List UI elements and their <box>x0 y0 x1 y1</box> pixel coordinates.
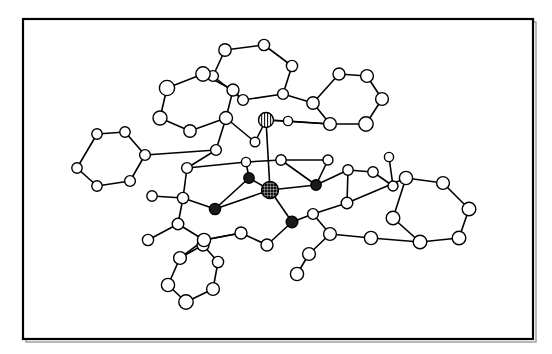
carbon-atom <box>307 97 319 109</box>
carbon-atom <box>147 191 157 201</box>
carbon-atom <box>462 202 476 216</box>
carbon-atom <box>172 218 184 230</box>
carbon-atom <box>153 111 167 125</box>
carbon-atom <box>161 278 174 291</box>
carbon-atom <box>238 95 249 106</box>
carbon-atom <box>452 231 466 245</box>
carbon-atom <box>343 165 353 175</box>
carbon-atom <box>196 67 210 81</box>
carbon-atom <box>283 116 292 125</box>
carbon-atom <box>364 231 377 244</box>
carbon-atom <box>92 129 102 139</box>
carbon-atom <box>241 157 250 166</box>
carbon-atom <box>250 137 260 147</box>
carbon-atom <box>207 283 220 296</box>
carbon-atom <box>324 118 337 131</box>
carbon-atom <box>220 112 233 125</box>
carbon-atom <box>286 60 297 71</box>
carbon-atom <box>323 155 333 165</box>
molecular-structure-svg <box>0 0 552 354</box>
carbon-atom <box>212 256 223 267</box>
carbon-atom <box>276 155 286 165</box>
carbon-atom <box>125 176 136 187</box>
carbon-atom <box>386 211 400 225</box>
carbon-atom <box>72 163 82 173</box>
heteroatom <box>311 180 321 190</box>
carbon-atom <box>376 93 389 106</box>
carbon-atom <box>184 125 196 137</box>
carbon-atom <box>179 295 193 309</box>
carbon-atom <box>235 227 247 239</box>
carbon-atom <box>384 152 393 161</box>
carbon-atom <box>368 167 378 177</box>
metal-atom <box>259 113 274 128</box>
frame-rect <box>23 19 533 339</box>
carbon-atom <box>324 228 337 241</box>
figure-root <box>0 0 552 354</box>
carbon-atom <box>308 209 319 220</box>
carbon-atom <box>261 239 273 251</box>
metal-atom <box>262 182 279 199</box>
carbon-atom <box>361 70 374 83</box>
carbon-atom <box>182 163 193 174</box>
carbon-atom <box>290 267 303 280</box>
carbon-atom <box>258 39 269 50</box>
carbon-atom <box>219 44 231 56</box>
heteroatom <box>244 173 254 183</box>
carbon-atom <box>140 150 151 161</box>
carbon-atom <box>177 192 188 203</box>
heteroatom <box>209 203 220 214</box>
carbon-atom <box>227 84 239 96</box>
carbon-atom <box>341 197 353 209</box>
carbon-atom <box>211 145 222 156</box>
carbon-atom <box>437 177 450 190</box>
carbon-atom <box>120 127 130 137</box>
carbon-atom <box>359 117 373 131</box>
carbon-atom <box>92 181 102 191</box>
carbon-atom <box>399 171 412 184</box>
frame-border <box>23 19 533 339</box>
carbon-atom <box>159 80 174 95</box>
carbon-atom <box>197 233 210 246</box>
carbon-atom <box>303 248 316 261</box>
carbon-atom <box>413 235 427 249</box>
carbon-atom <box>174 252 187 265</box>
carbon-atom <box>278 89 289 100</box>
carbon-atom <box>333 68 345 80</box>
carbon-atom <box>142 234 153 245</box>
carbon-atom <box>388 181 398 191</box>
heteroatom <box>286 216 298 228</box>
